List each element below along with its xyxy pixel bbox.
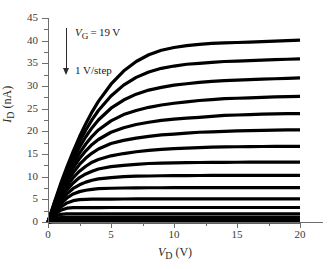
y-tick-30: [42, 86, 48, 87]
x-tick-label-5: 5: [96, 229, 126, 240]
y-axis-line: [48, 18, 49, 223]
x-tick-label-0: 0: [33, 229, 63, 240]
y-tick-label-40: 40: [12, 35, 38, 46]
y-tick-15: [42, 154, 48, 155]
y-tick-5: [42, 199, 48, 200]
x-minor-tick: [80, 222, 81, 226]
y-tick-35: [42, 63, 48, 64]
x-tick-label-20: 20: [285, 229, 315, 240]
x-axis-line: [48, 222, 323, 223]
y-axis-label: ID (nA): [0, 58, 16, 150]
x-minor-tick: [269, 222, 270, 226]
x-minor-tick: [206, 222, 207, 226]
y-minor-tick: [44, 165, 48, 166]
y-minor-tick: [44, 211, 48, 212]
vg-start-label: VG = 19 V: [75, 26, 120, 41]
y-tick-label-45: 45: [12, 12, 38, 23]
y-tick-10: [42, 177, 48, 178]
vg-annotation: VG = 19 V 1 V/step: [62, 26, 172, 80]
y-minor-tick: [44, 29, 48, 30]
output-characteristics-figure: 05101520253035404505101520 ID (nA) VD (V…: [0, 0, 336, 269]
x-tick-label-15: 15: [222, 229, 252, 240]
y-tick-label-5: 5: [12, 193, 38, 204]
y-tick-25: [42, 109, 48, 110]
vg-step-label: 1 V/step: [75, 64, 112, 76]
y-minor-tick: [44, 188, 48, 189]
y-tick-45: [42, 18, 48, 19]
y-tick-label-10: 10: [12, 171, 38, 182]
y-tick-label-0: 0: [12, 216, 38, 227]
x-minor-tick: [143, 222, 144, 226]
x-tick-label-10: 10: [159, 229, 189, 240]
x-axis-label: VD (V): [120, 245, 230, 261]
y-minor-tick: [44, 143, 48, 144]
y-minor-tick: [44, 97, 48, 98]
down-arrow-icon-shaft: [66, 28, 67, 70]
y-minor-tick: [44, 75, 48, 76]
y-minor-tick: [44, 52, 48, 53]
y-tick-40: [42, 41, 48, 42]
y-minor-tick: [44, 120, 48, 121]
down-arrow-icon-head: [63, 68, 69, 75]
y-tick-20: [42, 131, 48, 132]
